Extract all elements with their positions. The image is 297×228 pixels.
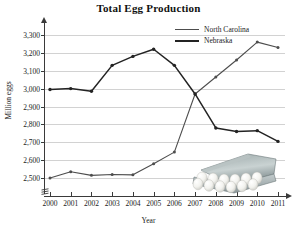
data-point: [276, 140, 279, 143]
data-point: [49, 177, 52, 180]
data-point: [214, 75, 217, 78]
chart-legend: North Carolina Nebraska: [175, 24, 249, 46]
data-point: [173, 64, 176, 67]
data-point: [152, 162, 155, 165]
legend-item-north-carolina: North Carolina: [175, 24, 249, 35]
egg-carton-photo: [188, 148, 280, 196]
data-point: [110, 64, 113, 67]
data-point: [277, 46, 280, 49]
legend-label-nebraska: Nebraska: [204, 35, 232, 46]
data-point: [256, 129, 259, 132]
legend-label-north-carolina: North Carolina: [204, 24, 249, 35]
data-point: [90, 174, 93, 177]
data-point: [235, 58, 238, 61]
egg-production-line-chart: Total Egg Production 2,5002,6002,7002,80…: [0, 0, 297, 228]
legend-swatch-north-carolina: [175, 29, 199, 30]
data-point: [235, 130, 238, 133]
series-line-nebraska: [50, 49, 278, 141]
data-point: [152, 48, 155, 51]
data-point: [131, 173, 134, 176]
data-point: [90, 90, 93, 93]
data-point: [131, 55, 134, 58]
data-point: [69, 87, 72, 90]
legend-item-nebraska: Nebraska: [175, 35, 249, 46]
data-point: [69, 170, 72, 173]
data-point: [193, 92, 196, 95]
legend-swatch-nebraska: [175, 40, 199, 42]
data-point: [173, 151, 176, 154]
data-point: [111, 173, 114, 176]
data-point: [48, 88, 51, 91]
data-point: [214, 126, 217, 129]
data-point: [256, 41, 259, 44]
